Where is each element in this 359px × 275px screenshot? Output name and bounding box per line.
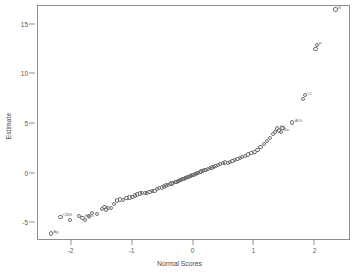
y-tick-mark	[29, 172, 35, 173]
x-axis-label: Normal Scores	[0, 260, 359, 268]
x-tick-label: -2	[68, 247, 74, 254]
y-axis: -5051015 Estimate	[0, 0, 37, 275]
y-axis-label: Estimate	[5, 91, 13, 161]
data-point-label: F	[319, 41, 322, 46]
x-axis: -2-1012 Normal Scores	[0, 240, 359, 275]
y-tick-label: 0	[24, 169, 28, 176]
x-tick-mark	[70, 240, 71, 245]
y-tick-mark	[29, 122, 35, 123]
y-tick-mark	[29, 23, 35, 24]
x-tick-mark	[131, 240, 132, 245]
x-tick-label: 0	[191, 247, 195, 254]
plot-frame: AgCBGEFGBiPdMoAlGClFB	[37, 5, 350, 240]
data-point-label: AlG	[295, 118, 302, 123]
x-tick-mark	[253, 240, 254, 245]
data-point	[262, 142, 266, 146]
qq-plot-figure: -5051015 Estimate AgCBGEFGBiPdMoAlGClFB …	[0, 0, 359, 275]
x-tick-mark	[192, 240, 193, 245]
data-point	[112, 202, 116, 206]
data-point	[280, 126, 284, 130]
data-point-label: CBG	[63, 212, 72, 217]
data-point-label: B	[338, 5, 341, 10]
y-tick-label: 5	[24, 119, 28, 126]
x-tick-mark	[314, 240, 315, 245]
data-point-label: Ag	[53, 229, 58, 234]
y-tick-label: -5	[22, 219, 28, 226]
x-tick-label: -1	[129, 247, 135, 254]
x-tick-label: 1	[252, 247, 256, 254]
data-point	[268, 136, 272, 140]
plot-area: AgCBGEFGBiPdMoAlGClFB	[38, 6, 349, 239]
data-point	[301, 97, 305, 101]
data-point	[109, 206, 113, 210]
y-tick-mark	[29, 73, 35, 74]
data-point	[313, 47, 317, 51]
y-tick-label: 10	[21, 70, 28, 77]
y-tick-label: 15	[21, 20, 28, 27]
data-point	[95, 212, 99, 216]
data-point	[68, 218, 72, 222]
x-tick-label: 2	[313, 247, 317, 254]
y-tick-mark	[29, 222, 35, 223]
data-point-label: Cl	[307, 91, 311, 96]
